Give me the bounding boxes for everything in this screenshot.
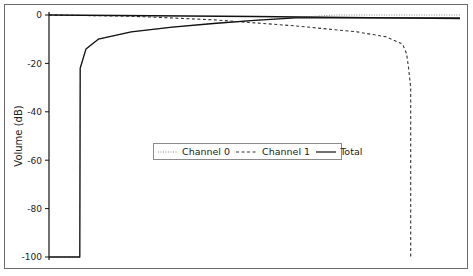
legend-item-total: Total: [316, 146, 362, 157]
legend-label: Total: [340, 146, 362, 157]
y-tick-label: -100: [22, 252, 43, 262]
y-axis-label: Volume (dB): [13, 105, 24, 166]
y-tick-label: 0: [36, 10, 42, 20]
series-line-channel-1: [49, 15, 411, 257]
legend-label: Channel 0: [182, 146, 230, 157]
series-layer: [49, 15, 460, 257]
series-line-total: [49, 18, 460, 257]
dotted-line-icon: [158, 149, 178, 155]
y-tick-label: -40: [27, 107, 42, 117]
legend: Channel 0 Channel 1 Total: [153, 143, 342, 160]
series-line-channel-0: [49, 15, 460, 257]
y-tick-label: -80: [27, 204, 42, 214]
solid-line-icon: [316, 149, 336, 155]
chart-plot: 0 -20 -40 -60 -80 -100 Volume (dB): [0, 0, 473, 276]
legend-item-channel-1: Channel 1: [236, 146, 310, 157]
series-line-total-upper: [49, 15, 460, 19]
y-tick-label: -20: [27, 59, 42, 69]
legend-label: Channel 1: [262, 146, 310, 157]
legend-item-channel-0: Channel 0: [158, 146, 230, 157]
y-tick-label: -60: [27, 156, 42, 166]
y-tick-labels: 0 -20 -40 -60 -80 -100: [22, 10, 43, 262]
dashed-line-icon: [236, 149, 258, 155]
